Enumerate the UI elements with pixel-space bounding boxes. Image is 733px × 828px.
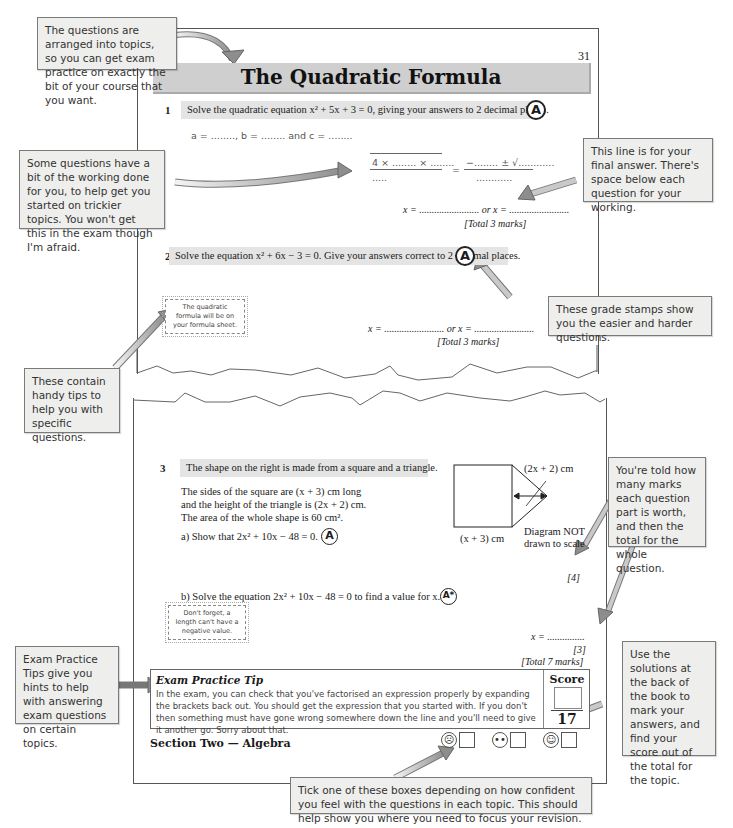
question-3-part-a: a) Show that 2x² + 10x − 48 = 0. [181, 530, 318, 543]
grade-stamp-a-icon: A [321, 528, 338, 545]
callout-grade-stamps: These grade stamps show you the easier a… [548, 296, 712, 336]
question-3-prompt: The shape on the right is made from a sq… [180, 459, 428, 477]
grade-stamp-a-icon: A [455, 246, 475, 266]
fraction-right-bar [464, 169, 533, 170]
callout-working: Some questions have a bit of the working… [19, 150, 165, 229]
exam-tip-body: In the exam, you can check that you've f… [156, 688, 536, 736]
confidence-medium-checkbox[interactable] [510, 732, 526, 748]
question-1-answer-line[interactable]: x = ........................ or x = ....… [403, 203, 569, 216]
callout-solutions: Use the solutions at the back of the boo… [622, 641, 716, 756]
question-3-answer-line[interactable]: x = ............... [531, 630, 585, 643]
callout-exam-tips: Exam Practice Tips give you hints to hel… [15, 646, 119, 724]
question-1-prompt: Solve the quadratic equation x² + 5x + 3… [181, 101, 535, 119]
page-number: 31 [578, 49, 590, 64]
question-3-part-a-marks: [4] [567, 571, 580, 584]
callout-confidence: Tick one of these boxes depending on how… [290, 777, 592, 814]
exam-practice-tip: Exam Practice Tip In the exam, you can c… [150, 669, 590, 729]
callout-marks: You're told how many marks each question… [608, 457, 706, 547]
confidence-low-checkbox[interactable] [459, 732, 475, 748]
score-input[interactable] [554, 687, 582, 709]
coefficients-line: a = ........, b = ........ and c = .....… [191, 130, 353, 141]
page-title: The Quadratic Formula [153, 63, 591, 94]
question-2-tip: The quadratic formula will be on your fo… [165, 299, 245, 334]
question-2-marks: [Total 3 marks] [437, 335, 499, 348]
question-3-total-marks: [Total 7 marks] [521, 655, 583, 668]
fraction-left-bar [370, 169, 442, 170]
fraction-right-numerator: −........ ± √............ [466, 157, 554, 168]
equals-sign: = [452, 164, 460, 175]
diagram-note-2: drawn to scale [524, 537, 585, 550]
fraction-left-denominator: ..... [372, 172, 387, 183]
fraction-top-rule [370, 153, 442, 154]
sad-face-icon: ☹ [441, 732, 457, 748]
neutral-face-icon: •• [492, 732, 508, 748]
callout-final-answer: This line is for your final answer. Ther… [583, 138, 713, 202]
question-3-body-line-3: The area of the whole shape is 60 cm². [181, 511, 343, 524]
fraction-right-denominator: ............ [476, 172, 512, 183]
question-3-part-b: b) Solve the equation 2x² + 10x − 48 = 0… [181, 590, 440, 603]
question-3-body-line-1: The sides of the square are (x + 3) cm l… [181, 485, 361, 498]
diagram-square-label: (x + 3) cm [460, 532, 504, 545]
callout-tips: These contain handy tips to help you wit… [24, 368, 120, 433]
happy-face-icon: ☺ [543, 732, 559, 748]
diagram-triangle-label: (2x + 2) cm [524, 462, 573, 475]
question-2-answer-line[interactable]: x = ........................ or x = ....… [368, 322, 534, 335]
question-3-tip: Don't forget, a length can't have a nega… [168, 605, 246, 640]
question-1-number: 1 [165, 104, 171, 116]
section-footer: Section Two — Algebra [150, 737, 291, 750]
callout-topics: The questions are arranged into topics, … [37, 17, 177, 70]
question-3-body-line-2: and the height of the triangle is (2x + … [181, 498, 366, 511]
grade-stamp-a-star-icon: A* [440, 588, 457, 605]
question-3-number: 3 [160, 462, 166, 474]
score-label: Score [544, 673, 590, 686]
fraction-left-numerator: 4 × ........ × ........ [372, 157, 454, 168]
exam-tip-title: Exam Practice Tip [156, 674, 263, 686]
score-total: 17 [544, 711, 590, 727]
grade-stamp-a-icon: A [526, 100, 546, 120]
question-1-marks: [Total 3 marks] [464, 217, 526, 230]
confidence-high-checkbox[interactable] [561, 732, 577, 748]
cropped-header-text [0, 0, 733, 8]
